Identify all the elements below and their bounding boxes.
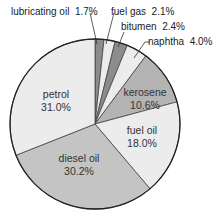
label-name: bitumen bbox=[121, 21, 157, 32]
label-fuel-oil: fuel oil 18.0% bbox=[127, 124, 157, 150]
label-pct: 31.0% bbox=[41, 101, 71, 114]
label-name: kerosene bbox=[123, 86, 166, 99]
label-pct: 2.4% bbox=[162, 21, 185, 32]
label-kerosene: kerosene 10.6% bbox=[123, 86, 166, 112]
pie-chart bbox=[0, 0, 224, 222]
label-fuel-gas: fuel gas 2.1% bbox=[111, 6, 174, 18]
label-name: naphtha bbox=[148, 36, 184, 47]
label-pct: 10.6% bbox=[123, 99, 166, 112]
label-naphtha: naphtha 4.0% bbox=[148, 36, 213, 48]
label-bitumen: bitumen 2.4% bbox=[121, 21, 185, 33]
label-diesel-oil: diesel oil 30.2% bbox=[59, 152, 100, 178]
label-name: fuel gas bbox=[111, 6, 146, 17]
label-name: diesel oil bbox=[59, 152, 100, 165]
label-pct: 2.1% bbox=[152, 6, 175, 17]
label-name: petrol bbox=[41, 88, 71, 101]
label-lubricating-oil: lubricating oil 1.7% bbox=[11, 6, 98, 18]
label-pct: 18.0% bbox=[127, 137, 157, 150]
label-name: lubricating oil bbox=[11, 6, 69, 17]
label-pct: 1.7% bbox=[75, 6, 98, 17]
label-petrol: petrol 31.0% bbox=[41, 88, 71, 114]
label-pct: 30.2% bbox=[59, 165, 100, 178]
label-name: fuel oil bbox=[127, 124, 157, 137]
label-pct: 4.0% bbox=[190, 36, 213, 47]
